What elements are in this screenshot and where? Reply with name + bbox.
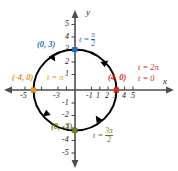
x-tick-label--5: -5 xyxy=(20,92,27,100)
y-tick-label--2: -2 xyxy=(62,111,69,119)
y-tick-label--1: -1 xyxy=(62,99,69,107)
x-tick-label-1: 1 xyxy=(96,92,100,100)
point-label-left: (-4, 0) xyxy=(12,73,33,82)
point-label-top: (0, 3) xyxy=(37,40,55,49)
parameter-label-2pi: t = 2π xyxy=(138,63,159,72)
fraction-denominator: 2 xyxy=(105,135,113,144)
y-axis-arrow-down xyxy=(72,160,79,168)
fraction-denominator: 2 xyxy=(91,39,95,48)
x-tick-label--1: -1 xyxy=(86,92,93,100)
parameter-label-pi: t = π xyxy=(47,73,64,82)
x-axis-arrow-left xyxy=(4,87,12,94)
fraction-pi-over-2: π 2 xyxy=(91,31,95,48)
parameter-label-top-eq: t = xyxy=(79,34,89,44)
point-label-right: (4, 0) xyxy=(108,73,126,82)
parametric-ellipse-figure: y x -5 -3 -1 1 2 3 4 5 5 4 3 2 1 -1 -2 -… xyxy=(0,0,178,171)
x-tick-label-2: 2 xyxy=(105,92,109,100)
y-axis-arrow-up xyxy=(72,10,79,18)
coordinate-plane xyxy=(0,0,178,171)
x-axis-label: x xyxy=(163,77,167,86)
fraction-numerator: π xyxy=(91,31,95,39)
y-tick-label-1: 1 xyxy=(65,70,69,78)
y-tick-label-5: 5 xyxy=(65,20,69,28)
x-tick-label--3: -3 xyxy=(53,92,60,100)
x-tick-label-4: 4 xyxy=(122,92,126,100)
x-tick-label-3: 3 xyxy=(113,92,117,100)
x-tick-label-5: 5 xyxy=(131,92,135,100)
point-label-bottom: (0, -3) xyxy=(51,122,72,131)
y-tick-label--4: -4 xyxy=(62,136,69,144)
parameter-label-top: t = π 2 xyxy=(79,32,95,49)
y-axis-label: y xyxy=(86,8,90,17)
parameter-label-zero: t = 0 xyxy=(138,74,155,83)
point-marker-left xyxy=(31,87,36,92)
y-tick-label--5: -5 xyxy=(62,149,69,157)
fraction-3pi-over-2: 3π 2 xyxy=(105,127,113,144)
x-axis-arrow-right xyxy=(166,87,174,94)
point-marker-top xyxy=(72,47,77,52)
y-tick-label-2: 2 xyxy=(65,58,69,66)
parameter-label-bottom-eq: t = xyxy=(93,130,103,140)
parameter-label-bottom: t = 3π 2 xyxy=(93,128,113,145)
fraction-numerator: 3π xyxy=(105,127,113,135)
point-marker-bottom xyxy=(72,128,77,133)
y-tick-label-3: 3 xyxy=(65,45,69,53)
y-tick-label-4: 4 xyxy=(65,33,69,41)
